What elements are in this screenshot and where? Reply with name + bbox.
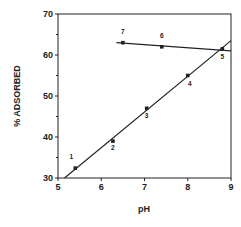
plot-frame <box>58 14 231 178</box>
data-point-marker <box>186 74 190 78</box>
data-point-marker <box>74 166 78 170</box>
y-axis-label: % ADSORBED <box>12 65 22 127</box>
y-tick-label: 30 <box>43 173 53 183</box>
data-point-label: 4 <box>188 80 192 87</box>
x-tick-label: 8 <box>185 182 190 192</box>
y-tick-label: 50 <box>43 91 53 101</box>
data-point-label: 5 <box>221 53 225 60</box>
data-point-marker <box>160 45 164 49</box>
x-tick-label: 7 <box>142 182 147 192</box>
data-point-marker <box>121 41 125 45</box>
data-point-marker <box>111 139 115 143</box>
x-axis-label: pH <box>138 204 150 214</box>
x-tick-label: 9 <box>228 182 233 192</box>
data-point-label: 6 <box>160 32 164 39</box>
data-point-label: 2 <box>111 144 115 151</box>
data-point-label: 3 <box>145 112 149 119</box>
y-tick-label: 70 <box>43 9 53 19</box>
axis-ticks: 567893040506070 <box>43 9 234 192</box>
y-tick-label: 60 <box>43 50 53 60</box>
fit-line <box>116 43 231 51</box>
data-point-label: 7 <box>121 28 125 35</box>
data-point-marker <box>221 47 225 51</box>
data-point-marker <box>145 107 149 111</box>
chart: 567893040506070 1234567 pH % ADSORBED <box>0 0 241 227</box>
x-tick-label: 6 <box>99 182 104 192</box>
y-tick-label: 40 <box>43 132 53 142</box>
plot-border <box>58 14 231 178</box>
x-tick-label: 5 <box>55 182 60 192</box>
data-point-label: 1 <box>69 153 73 160</box>
